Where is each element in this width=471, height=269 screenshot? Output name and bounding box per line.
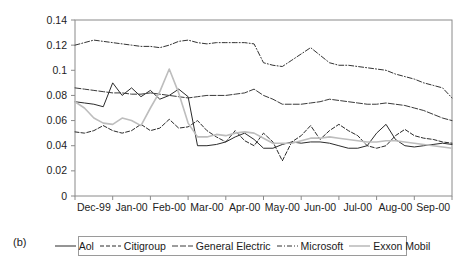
y-axis-labels: 00.020.040.060.080.10.120.14 (47, 14, 68, 202)
legend-item-microsoft[interactable]: Microsoft (277, 240, 344, 252)
x-tick-label: Mar-00 (190, 201, 223, 213)
plot-frame (75, 20, 452, 196)
y-tick-label: 0.06 (47, 114, 68, 126)
legend-item-aol[interactable]: Aol (55, 240, 94, 252)
legend-item-exxon-mobil[interactable]: Exxon Mobil (349, 240, 430, 252)
y-tick-label: 0.02 (47, 164, 68, 176)
x-tick-label: Dec-99 (77, 201, 111, 213)
legend-swatch-icon (172, 242, 193, 250)
legend-swatch-icon (277, 242, 298, 250)
legend-label: Citigroup (124, 240, 166, 252)
y-tick-label: 0.12 (47, 39, 68, 51)
series-line-general-electric (75, 88, 452, 121)
panel-label: (b) (13, 236, 26, 248)
y-tick-label: 0.08 (47, 89, 68, 101)
legend-item-general-electric[interactable]: General Electric (172, 240, 271, 252)
legend-swatch-icon (55, 242, 76, 250)
legend-swatch-icon (100, 242, 121, 250)
x-tick-label: Sep-00 (416, 201, 450, 213)
x-tick-label: Aug-00 (379, 201, 413, 213)
line-chart: 00.020.040.060.080.10.120.14 Dec-99Jan-0… (0, 0, 471, 269)
y-tick-label: 0.1 (52, 64, 67, 76)
y-tick-label: 0.14 (47, 14, 68, 26)
series-lines (75, 40, 452, 161)
y-axis-ticks (71, 20, 75, 196)
x-axis-labels: Dec-99Jan-00Feb-00Mar-00Apr-00May-00Jun-… (77, 201, 450, 213)
legend-swatch-icon (349, 242, 370, 250)
series-line-exxon-mobil (75, 69, 452, 148)
x-axis-ticks (75, 196, 452, 200)
plot-border (75, 20, 452, 196)
legend-label: Exxon Mobil (373, 240, 430, 252)
x-tick-label: Jan-00 (115, 201, 147, 213)
y-tick-label: 0 (61, 190, 67, 202)
x-tick-label: May-00 (265, 201, 300, 213)
series-line-microsoft (75, 40, 452, 98)
legend-label: General Electric (196, 240, 271, 252)
x-tick-label: Feb-00 (153, 201, 186, 213)
y-tick-label: 0.04 (47, 139, 68, 151)
figure-panel-b: 00.020.040.060.080.10.120.14 Dec-99Jan-0… (0, 0, 471, 269)
legend-label: Microsoft (301, 240, 344, 252)
legend-label: Aol (79, 240, 94, 252)
chart-legend: AolCitigroupGeneral ElectricMicrosoftExx… (78, 236, 407, 256)
legend-item-citigroup[interactable]: Citigroup (100, 240, 166, 252)
x-tick-label: Jul-00 (343, 201, 372, 213)
x-tick-label: Jun-00 (304, 201, 336, 213)
x-tick-label: Apr-00 (229, 201, 261, 213)
